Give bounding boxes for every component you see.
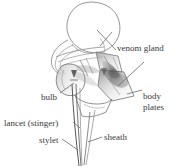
label-body-plates-line1: body	[143, 91, 164, 102]
label-bulb: bulb	[41, 92, 57, 102]
stinger-illustration	[0, 0, 181, 167]
label-sheath: sheath	[104, 132, 127, 142]
label-body-plates-line2: plates	[143, 102, 164, 113]
label-lancet-stinger: lancet (stinger)	[4, 118, 58, 128]
label-stylet: stylet	[39, 135, 59, 145]
leader-lancet	[73, 122, 80, 128]
leader-stylet	[62, 139, 78, 150]
label-venom-gland: venom gland	[117, 43, 164, 53]
label-body-plates: body plates	[143, 91, 164, 112]
stinger-diagram: venom gland bulb body plates lancet (sti…	[0, 0, 181, 167]
